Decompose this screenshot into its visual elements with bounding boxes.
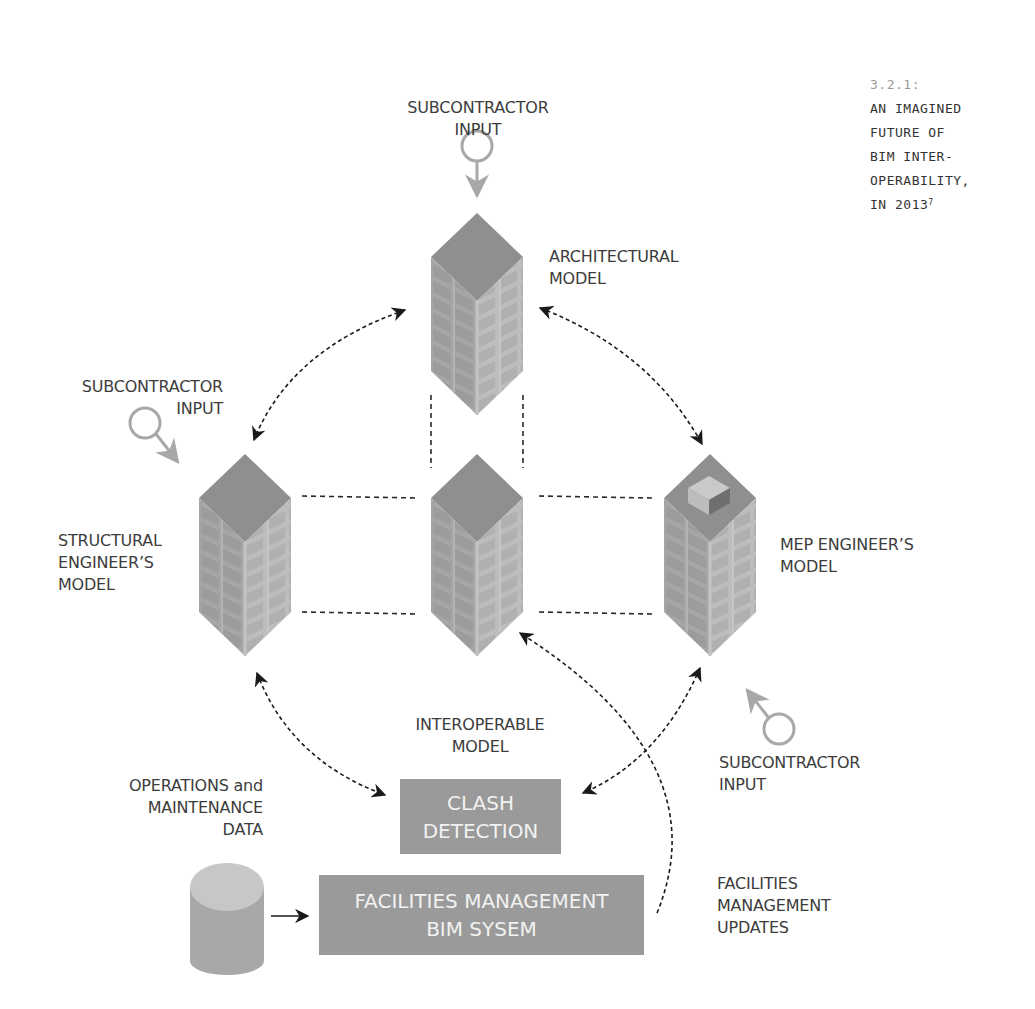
- interoperable-model-label: INTEROPERABLE MODEL: [380, 714, 580, 758]
- footnote-marker: 7: [928, 198, 933, 207]
- caption-line: FUTURE OF: [870, 121, 970, 145]
- om-data-label: OPERATIONS and MAINTENANCE DATA: [80, 775, 263, 841]
- fm-bim-system-box: FACILITIES MANAGEMENT BIM SYSEM: [319, 875, 644, 955]
- caption-line: BIM INTER-: [870, 145, 970, 169]
- architectural-model-label: ARCHITECTURAL MODEL: [549, 246, 678, 290]
- structural-building-icon: [199, 454, 291, 656]
- om-database-icon: [190, 863, 264, 975]
- figure-number: 3.2.1:: [870, 73, 970, 97]
- top-subcontractor-label: SUBCONTRACTOR INPUT: [393, 97, 563, 141]
- caption-line: OPERABILITY,: [870, 169, 970, 193]
- figure-caption: 3.2.1: AN IMAGINED FUTURE OF BIM INTER- …: [870, 73, 970, 217]
- mep-model-label: MEP ENGINEER’S MODEL: [780, 534, 914, 578]
- architectural-building-icon: [431, 213, 523, 415]
- caption-line: AN IMAGINED: [870, 97, 970, 121]
- clash-detection-box: CLASH DETECTION: [400, 779, 561, 854]
- right-subcontractor-label: SUBCONTRACTOR INPUT: [719, 752, 860, 796]
- subcontractor-input-icons: [130, 131, 794, 744]
- interoperable-building-icon: [431, 454, 523, 656]
- mep-building-icon: [664, 454, 756, 656]
- left-subcontractor-label: SUBCONTRACTOR INPUT: [40, 376, 223, 420]
- structural-model-label: STRUCTURAL ENGINEER’S MODEL: [58, 530, 162, 596]
- fm-updates-label: FACILITIES MANAGEMENT UPDATES: [717, 873, 831, 939]
- caption-line: IN 20137: [870, 193, 970, 217]
